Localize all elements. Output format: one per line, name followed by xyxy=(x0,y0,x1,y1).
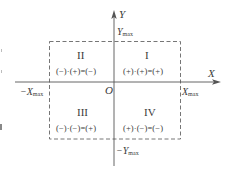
quadrant-2-rule: (−)·(+)=(−) xyxy=(56,67,96,76)
quadrant-4-rule: (+)·(−)=(−) xyxy=(123,124,163,133)
edge-artifact xyxy=(1,70,2,73)
neg-x-max-label: −Xmax xyxy=(20,87,43,97)
edge-artifact xyxy=(1,49,2,52)
quadrant-1-rule: (+)·(+)=(+) xyxy=(123,67,163,76)
quadrant-3-numeral: III xyxy=(77,107,88,118)
x-max-sub: max xyxy=(188,91,198,97)
neg-y-max-sub: max xyxy=(128,150,138,156)
quadrant-4-numeral: IV xyxy=(144,107,156,118)
neg-y-max-base: −Y xyxy=(116,145,128,156)
y-max-sub: max xyxy=(123,31,133,37)
quadrant-2-numeral: II xyxy=(77,50,84,61)
y-max-label: Ymax xyxy=(117,27,133,37)
neg-y-max-label: −Ymax xyxy=(116,146,139,156)
edge-artifact xyxy=(0,124,2,130)
y-axis-label: Y xyxy=(119,9,125,20)
x-axis-label: X xyxy=(208,68,215,79)
neg-x-max-sub: max xyxy=(33,91,43,97)
origin-label: O xyxy=(105,85,113,96)
quadrant-1-numeral: I xyxy=(145,50,149,61)
quadrant-3-rule: (−)·(−)=(+) xyxy=(56,124,96,133)
neg-x-max-base: −X xyxy=(20,86,33,97)
x-max-label: Xmax xyxy=(182,87,198,97)
